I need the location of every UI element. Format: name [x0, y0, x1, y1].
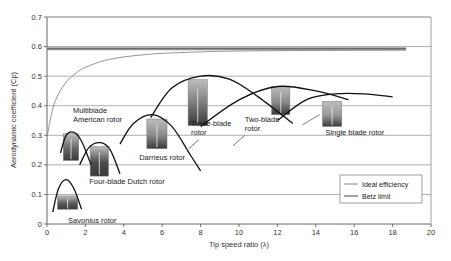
x-tick-label: 6	[160, 228, 164, 237]
x-tick-label: 0	[45, 228, 49, 237]
rotor-photos	[58, 80, 342, 210]
legend: Ideal efficiency Betz limit	[340, 175, 422, 203]
legend-label-ideal: Ideal efficiency	[362, 181, 409, 189]
x-tick-label: 14	[312, 228, 320, 237]
y-tick-label: 0.3	[32, 131, 42, 140]
y-tick-label: 0.2	[32, 160, 42, 169]
rotor-label: Two-blade	[245, 115, 280, 124]
rotor-label: Darrieus rotor	[139, 153, 185, 162]
y-axis-title: Aerodynamic coefficient (Cp)	[9, 71, 18, 168]
y-tick-label: 0.4	[32, 101, 42, 110]
single-blade-photo	[323, 101, 342, 126]
leader-line	[302, 115, 319, 125]
rotor-label: rotor	[191, 128, 207, 137]
dutch-photo	[90, 147, 108, 177]
x-tick-label: 18	[388, 228, 396, 237]
rotor-label: Four-blade Dutch rotor	[89, 177, 165, 186]
x-tick-label: 4	[122, 228, 126, 237]
x-tick-label: 16	[350, 228, 358, 237]
rotor-label: American rotor	[73, 115, 123, 124]
leader-line	[233, 135, 245, 145]
rotor-label: Three-blade	[191, 119, 231, 128]
x-tick-label: 20	[427, 228, 435, 237]
x-tick-label: 2	[83, 228, 87, 237]
legend-label-betz: Betz limit	[362, 193, 390, 200]
leader-line	[189, 140, 199, 149]
two-blade-photo	[272, 86, 290, 114]
chart-canvas: 00.10.20.30.40.50.60.702468101214161820 …	[0, 0, 451, 261]
cp-vs-tsr-chart: 00.10.20.30.40.50.60.702468101214161820 …	[0, 0, 451, 261]
y-tick-label: 0.5	[32, 72, 42, 81]
rotor-label: Savonius rotor	[68, 216, 117, 225]
y-tick-label: 0.7	[32, 13, 42, 22]
x-tick-label: 8	[199, 228, 203, 237]
rotor-label: rotor	[245, 124, 261, 133]
darrieus-photo	[147, 119, 167, 149]
x-tick-label: 12	[273, 228, 281, 237]
x-axis-title: Tip speed ratio (λ)	[209, 240, 270, 249]
savonius-photo	[58, 196, 78, 209]
y-tick-label: 0.6	[32, 42, 42, 51]
x-tick-label: 10	[235, 228, 243, 237]
y-tick-label: 0.1	[32, 190, 42, 199]
rotor-label: Single blade rotor	[325, 128, 384, 137]
y-tick-label: 0	[38, 220, 42, 229]
rotor-label: Multiblade	[73, 106, 107, 115]
